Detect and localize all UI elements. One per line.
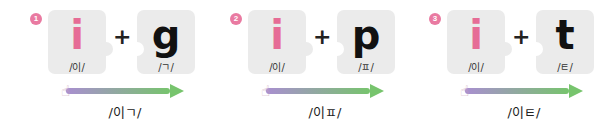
blended-result: /이ㅌ/ — [459, 102, 589, 121]
consonant-sound: /ㅌ/ — [536, 59, 594, 74]
blend-arrow — [465, 86, 583, 96]
blend-group-3: 3 i /이/ + t /ㅌ/ ☝ /이ㅌ/ — [399, 0, 604, 127]
vowel-puzzle-piece: i /이/ — [48, 10, 106, 74]
blend-arrow — [66, 86, 184, 96]
consonant-sound: /ㅍ/ — [337, 59, 395, 74]
vowel-puzzle-piece: i /이/ — [248, 10, 306, 74]
consonant-sound: /ㄱ/ — [137, 59, 195, 74]
number-badge: 3 — [429, 13, 441, 25]
vowel-puzzle-piece: i /이/ — [447, 10, 505, 74]
consonant-letter: g — [137, 12, 195, 58]
vowel-sound: /이/ — [248, 59, 306, 74]
consonant-letter: p — [337, 12, 395, 58]
arrow-head-icon — [170, 84, 184, 98]
arrow-shaft — [465, 88, 569, 94]
number-badge: 2 — [230, 13, 242, 25]
arrow-head-icon — [370, 84, 384, 98]
arrow-shaft — [66, 88, 170, 94]
blend-group-1: 1 i /이/ + g /ㄱ/ ☝ /이ㄱ/ — [0, 0, 205, 127]
consonant-puzzle-piece: t /ㅌ/ — [536, 10, 594, 74]
pointing-hand-icon: ☝ — [61, 84, 70, 99]
consonant-puzzle-piece: g /ㄱ/ — [137, 10, 195, 74]
plus-sign: + — [512, 26, 530, 48]
consonant-letter: t — [536, 12, 594, 58]
arrow-shaft — [266, 88, 370, 94]
blend-group-2: 2 i /이/ + p /ㅍ/ ☝ /이ㅍ/ — [200, 0, 405, 127]
arrow-head-icon — [569, 84, 583, 98]
blend-arrow — [266, 86, 384, 96]
pointing-hand-icon: ☝ — [460, 84, 469, 99]
vowel-letter: i — [48, 12, 106, 58]
blended-result: /이ㄱ/ — [60, 102, 190, 121]
vowel-letter: i — [248, 12, 306, 58]
number-badge: 1 — [30, 13, 42, 25]
blended-result: /이ㅍ/ — [260, 102, 390, 121]
consonant-puzzle-piece: p /ㅍ/ — [337, 10, 395, 74]
pointing-hand-icon: ☝ — [261, 84, 270, 99]
plus-sign: + — [113, 26, 131, 48]
vowel-letter: i — [447, 12, 505, 58]
vowel-sound: /이/ — [447, 59, 505, 74]
plus-sign: + — [313, 26, 331, 48]
vowel-sound: /이/ — [48, 59, 106, 74]
